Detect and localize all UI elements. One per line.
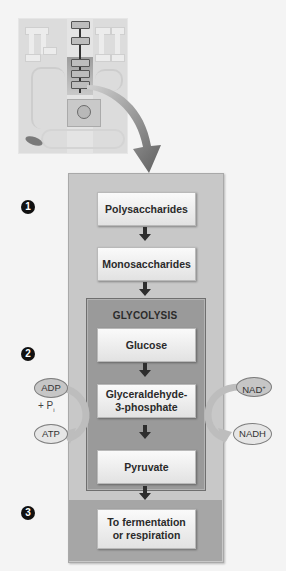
down-arrow-icon [139,486,151,500]
ghost-box [25,54,41,62]
step-marker-2: 2 [21,347,35,361]
step-glucose: Glucose [97,328,196,362]
step-label: Glyceraldehyde- 3-phosphate [106,388,188,414]
down-arrow-icon [139,425,151,439]
step-label: Pyruvate [124,461,168,474]
adp-ellipse: ADP [34,378,68,398]
step-glyceraldehyde-3-phosphate: Glyceraldehyde- 3-phosphate [97,384,196,418]
step-label: Polysaccharides [105,203,188,216]
pathway-step [71,37,90,45]
ghost-box [43,47,57,55]
nadh-ellipse: NADH [233,423,272,445]
step-fermentation-or-respiration: To fermentation or respiration [97,509,196,549]
pathway-step [71,59,90,67]
step-polysaccharides: Polysaccharides [97,192,196,226]
step-monosaccharides: Monosaccharides [97,247,196,281]
ghost-box [95,54,111,62]
down-arrow-icon [139,227,151,241]
down-arrow-icon [139,282,151,296]
step-pyruvate: Pyruvate [97,450,196,484]
down-arrow-icon [139,363,151,377]
step-marker-1: 1 [21,200,35,214]
curved-arrow-icon [85,85,165,180]
ghost-line [99,34,104,54]
step-label: Monosaccharides [102,258,191,271]
pipe [31,67,65,129]
step-label: Glucose [126,339,167,352]
pathway-step [71,70,90,78]
step-marker-3: 3 [21,506,35,520]
atp-ellipse: ATP [34,424,68,444]
pathway-step [71,21,90,29]
nad-plus-ellipse: NAD+ [236,377,272,397]
ghost-box [111,54,125,62]
step-label: To fermentation or respiration [107,516,186,542]
glycolysis-label: GLYCOLYSIS [86,310,204,321]
ghost-line [29,34,34,54]
ghost-line [115,34,120,54]
plus-phosphate-label: + Pi [38,400,55,413]
